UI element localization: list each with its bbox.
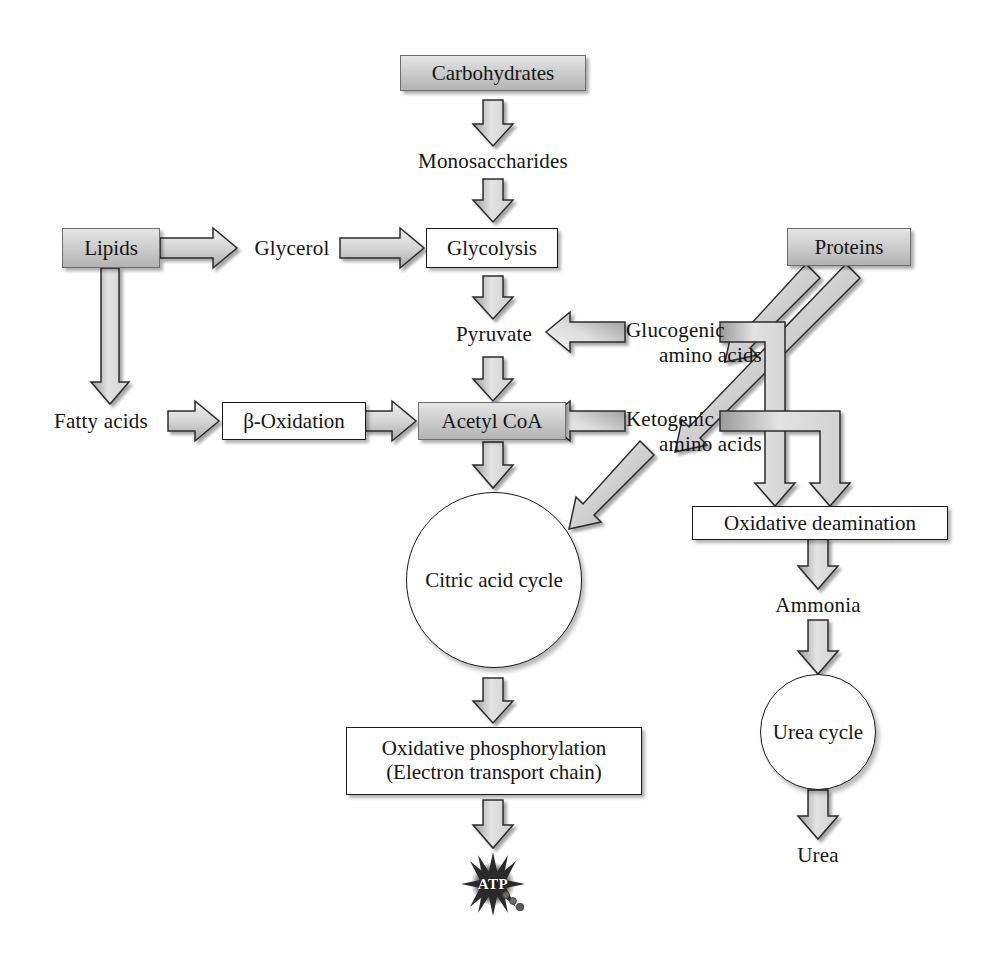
node-lipids[interactable]: Lipids	[62, 228, 160, 268]
arrow-lipids-to-fatty-acids	[91, 268, 129, 404]
node-proteins[interactable]: Proteins	[787, 228, 911, 266]
arrow-oxidative-phosphorylation-to-atp	[473, 800, 513, 848]
arrow-pyruvate-to-acetylcoa	[473, 357, 513, 401]
node-fatty-acids: Fatty acids	[34, 406, 168, 436]
arrow-fatty-acids-to-beta-oxidation	[168, 401, 219, 441]
arrow-glucogenic-amino-acids-to-pyruvate	[546, 312, 625, 352]
arrow-lipids-to-glycerol	[160, 228, 237, 268]
node-glycerol-label: Glycerol	[254, 236, 329, 260]
node-atp-label: ATP	[478, 876, 508, 893]
arrow-oxidative-deamination-to-ammonia	[798, 539, 838, 589]
arrow-layer	[0, 0, 986, 955]
node-ketogenic-amino-acids-line2: amino acids	[626, 432, 762, 457]
node-oxidative-deamination-label: Oxidative deamination	[724, 511, 916, 535]
node-urea-cycle[interactable]: Urea cycle	[760, 674, 876, 790]
node-glycolysis[interactable]: Glycolysis	[426, 228, 558, 268]
node-oxidative-phosphorylation-line2: (Electron transport chain)	[347, 760, 641, 784]
arrow-citric-acid-cycle-to-oxidative-phosphorylation	[473, 678, 513, 723]
node-beta-oxidation[interactable]: β-Oxidation	[222, 402, 366, 440]
node-glucogenic-amino-acids: Glucogenic amino acids	[626, 318, 762, 374]
node-urea-label: Urea	[797, 843, 839, 867]
node-citric-acid-cycle-label: Citric acid cycle	[425, 568, 563, 592]
node-glycolysis-label: Glycolysis	[447, 236, 537, 260]
node-citric-acid-cycle[interactable]: Citric acid cycle	[406, 492, 582, 668]
node-glycerol: Glycerol	[243, 233, 341, 263]
node-carbohydrates[interactable]: Carbohydrates	[400, 55, 586, 91]
arrow-acetylcoa-to-citric-acid-cycle	[473, 442, 513, 488]
arrow-ammonia-to-urea-cycle	[798, 620, 838, 674]
arrow-beta-oxidation-to-acetylcoa	[365, 401, 416, 441]
node-beta-oxidation-label: β-Oxidation	[243, 409, 345, 433]
node-lipids-label: Lipids	[84, 236, 138, 260]
node-carbohydrates-label: Carbohydrates	[432, 61, 554, 85]
node-glucogenic-amino-acids-line2: amino acids	[626, 343, 762, 368]
node-acetyl-coa-label: Acetyl CoA	[442, 409, 543, 433]
node-acetyl-coa[interactable]: Acetyl CoA	[418, 402, 566, 440]
node-oxidative-deamination[interactable]: Oxidative deamination	[692, 506, 948, 540]
node-atp[interactable]: ATP	[457, 855, 529, 913]
metabolism-overview-diagram: Carbohydrates Monosaccharides Glycolysis…	[0, 0, 986, 955]
node-ammonia: Ammonia	[760, 590, 876, 620]
arrow-monosaccharides-to-glycolysis	[473, 179, 513, 222]
node-ketogenic-amino-acids: Ketogenic amino acids	[626, 407, 762, 463]
node-glucogenic-amino-acids-line1: Glucogenic	[626, 318, 762, 343]
node-fatty-acids-label: Fatty acids	[54, 409, 148, 433]
node-ammonia-label: Ammonia	[775, 593, 860, 617]
arrow-glycolysis-to-pyruvate	[473, 276, 513, 319]
arrow-glycerol-to-glycolysis	[340, 228, 424, 268]
arrow-carbohydrates-to-monosaccharides	[473, 100, 513, 146]
node-ketogenic-amino-acids-line1: Ketogenic	[626, 407, 762, 432]
node-proteins-label: Proteins	[815, 235, 884, 259]
node-oxidative-phosphorylation-line1: Oxidative phosphorylation	[347, 736, 641, 760]
node-urea-cycle-label: Urea cycle	[773, 720, 863, 744]
node-monosaccharides-label: Monosaccharides	[418, 149, 568, 173]
arrow-urea-cycle-to-urea	[798, 790, 838, 839]
node-urea: Urea	[773, 840, 863, 870]
node-monosaccharides: Monosaccharides	[396, 146, 590, 176]
node-oxidative-phosphorylation[interactable]: Oxidative phosphorylation (Electron tran…	[346, 727, 642, 795]
node-pyruvate: Pyruvate	[438, 319, 550, 349]
node-pyruvate-label: Pyruvate	[456, 322, 532, 346]
